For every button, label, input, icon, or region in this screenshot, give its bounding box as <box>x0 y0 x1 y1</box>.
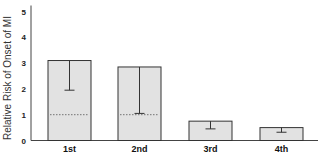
y-tick-label: 5 <box>22 8 27 17</box>
x-category-label: 3rd <box>203 144 217 154</box>
y-tick-label: 1 <box>22 111 27 120</box>
x-axis-labels: 1st2nd3rd4th <box>63 144 288 154</box>
x-category-label: 2nd <box>131 144 147 154</box>
y-axis-label: Relative Risk of Onset of MI <box>2 16 13 140</box>
y-tick-label: 3 <box>22 59 27 68</box>
x-category-label: 4th <box>275 144 289 154</box>
bar-group <box>48 61 91 141</box>
y-tick-label: 2 <box>22 85 27 94</box>
y-tick-label: 4 <box>22 33 27 42</box>
bar-group <box>189 121 232 140</box>
bar-group <box>260 128 303 141</box>
bar-group <box>118 67 161 141</box>
bar-chart: 012345 1st2nd3rd4th Relative Risk of Ons… <box>0 0 318 159</box>
y-tick-label: 0 <box>22 137 27 146</box>
x-category-label: 1st <box>63 144 76 154</box>
bars <box>48 61 303 141</box>
